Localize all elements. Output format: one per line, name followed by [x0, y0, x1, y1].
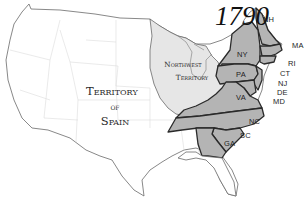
florida-region: [178, 152, 236, 196]
label-ct: CT: [280, 69, 291, 78]
label-nj: NJ: [278, 79, 288, 88]
label-ga: GA: [224, 139, 235, 148]
state-ct-ri: [260, 56, 276, 64]
label-nh: NH: [263, 15, 274, 24]
label-va: VA: [236, 93, 246, 102]
label-ma: MA: [292, 41, 304, 50]
label-sc: SC: [240, 131, 251, 140]
svg-text:Territory: Territory: [176, 73, 209, 82]
label-ri: RI: [288, 59, 296, 68]
map-year-title: 1790: [215, 1, 270, 31]
svg-text:Territory: Territory: [86, 84, 138, 98]
label-md: MD: [273, 97, 285, 106]
svg-text:of: of: [110, 102, 119, 112]
svg-text:Spain: Spain: [101, 114, 129, 128]
label-nc: NC: [249, 117, 261, 126]
svg-text:Northwest: Northwest: [164, 60, 202, 69]
state-ma: [260, 44, 282, 56]
label-pa: PA: [236, 70, 246, 79]
label-de: DE: [277, 88, 288, 97]
us-1790-map: 1790 Territory of Spain Northwest Territ…: [0, 0, 307, 202]
label-ny: NY: [237, 50, 248, 59]
